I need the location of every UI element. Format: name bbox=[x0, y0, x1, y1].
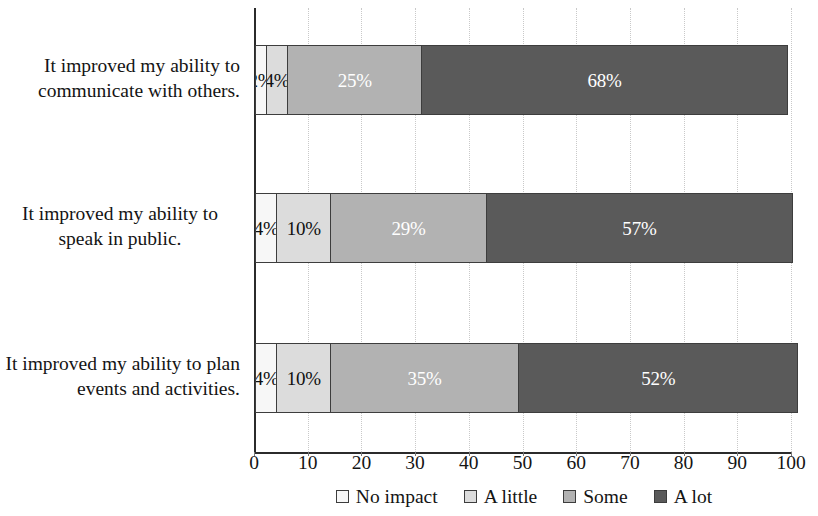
legend-item: Some bbox=[563, 487, 627, 507]
legend-swatch-icon bbox=[563, 490, 576, 503]
category-axis-labels: It improved my ability to communicate wi… bbox=[0, 0, 248, 452]
legend-label: Some bbox=[583, 487, 627, 507]
stacked-bar-chart: It improved my ability to communicate wi… bbox=[0, 0, 818, 516]
x-axis-tick-label: 90 bbox=[728, 452, 748, 474]
category-label: It improved my ability to communicate wi… bbox=[0, 53, 248, 103]
x-axis-tick-label: 0 bbox=[249, 452, 259, 474]
bar-segment-value-label: 52% bbox=[641, 369, 675, 388]
bar-segment: 57% bbox=[486, 193, 793, 263]
bar-segment-value-label: 68% bbox=[587, 71, 621, 90]
bar-segment: 10% bbox=[276, 343, 331, 413]
bar-segment: 35% bbox=[330, 343, 519, 413]
legend-item: A lot bbox=[654, 487, 712, 507]
legend-item: No impact bbox=[336, 487, 438, 507]
bar-segment: 4% bbox=[255, 343, 277, 413]
legend-label: A little bbox=[484, 487, 538, 507]
category-label: It improved my ability to plan events an… bbox=[0, 351, 248, 401]
legend-label: No impact bbox=[356, 487, 438, 507]
legend-label: A lot bbox=[674, 487, 712, 507]
bar-segment-value-label: 10% bbox=[287, 369, 321, 388]
bar-segment-value-label: 25% bbox=[338, 71, 372, 90]
x-axis-tick-label: 40 bbox=[459, 452, 479, 474]
bar-segment-value-label: 2% bbox=[255, 71, 267, 90]
bar-segment-value-label: 57% bbox=[622, 219, 656, 238]
x-axis-tick-label: 70 bbox=[620, 452, 640, 474]
bar-segment-value-label: 4% bbox=[255, 369, 277, 388]
bar-segment: 29% bbox=[330, 193, 487, 263]
legend-swatch-icon bbox=[464, 490, 477, 503]
plot-area: 2%4%25%68%4%10%29%57%4%10%35%52% bbox=[254, 8, 794, 452]
x-axis-tick-label: 50 bbox=[513, 452, 533, 474]
bar-segment-value-label: 4% bbox=[266, 71, 288, 90]
x-axis-tick-label: 60 bbox=[566, 452, 586, 474]
category-label: It improved my ability to speak in publi… bbox=[0, 201, 248, 251]
legend-swatch-icon bbox=[336, 490, 349, 503]
bar-segment: 52% bbox=[518, 343, 798, 413]
x-axis-tick-label: 30 bbox=[405, 452, 425, 474]
bar-segment-value-label: 29% bbox=[391, 219, 425, 238]
legend-item: A little bbox=[464, 487, 538, 507]
bar-segment: 10% bbox=[276, 193, 331, 263]
x-axis-tick-label: 100 bbox=[776, 452, 805, 474]
x-axis-tick-label: 80 bbox=[674, 452, 694, 474]
bar-segment: 25% bbox=[287, 45, 422, 115]
chart-legend: No impactA littleSomeA lot bbox=[254, 487, 794, 507]
bar-segment-value-label: 35% bbox=[408, 369, 442, 388]
bar-segment-value-label: 4% bbox=[255, 219, 277, 238]
bar-segment: 4% bbox=[255, 193, 277, 263]
bar-segment: 68% bbox=[421, 45, 787, 115]
bar-segment: 2% bbox=[255, 45, 267, 115]
bar-segment-value-label: 10% bbox=[287, 219, 321, 238]
x-axis-tick-label: 10 bbox=[298, 452, 318, 474]
bar-segment: 4% bbox=[266, 45, 288, 115]
legend-swatch-icon bbox=[654, 490, 667, 503]
x-axis-tick-label: 20 bbox=[352, 452, 372, 474]
